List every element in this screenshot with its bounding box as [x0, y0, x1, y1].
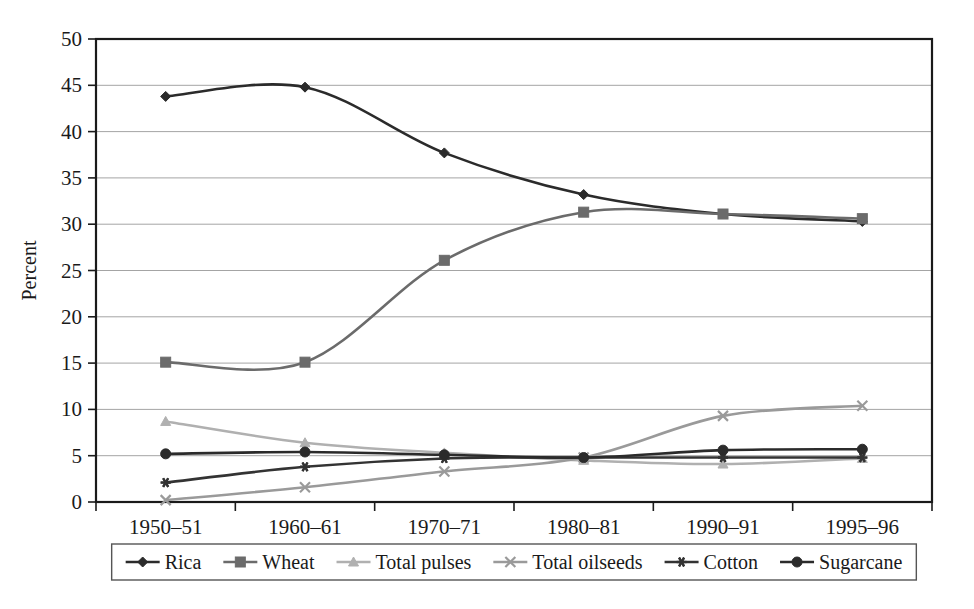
series-line — [166, 209, 863, 370]
data-point-circle — [718, 445, 728, 455]
data-point-square — [718, 209, 728, 219]
y-tick-label: 0 — [72, 490, 83, 514]
gridlines — [96, 39, 932, 456]
legend-label: Total oilseeds — [532, 551, 642, 573]
legend-label: Cotton — [704, 551, 758, 573]
data-point-circle — [300, 447, 310, 457]
series-line — [166, 457, 863, 482]
series-sugarcane — [161, 444, 868, 462]
x-axis: 1950–511960–611970–711980–811990–911995–… — [96, 502, 932, 539]
series-cotton — [161, 453, 868, 487]
data-point-circle — [439, 450, 449, 460]
data-point-square — [579, 207, 589, 217]
data-point-square — [161, 357, 171, 367]
legend-label: Sugarcane — [819, 551, 902, 574]
series-line — [166, 84, 863, 221]
data-point-square — [439, 255, 449, 265]
y-axis-title: Percent — [18, 240, 40, 300]
y-tick-label: 50 — [61, 27, 82, 51]
series-total-pulses — [161, 416, 868, 468]
data-point-asterisk — [161, 478, 171, 487]
y-tick-label: 40 — [61, 120, 82, 144]
y-tick-label: 20 — [61, 305, 82, 329]
x-tick-label: 1950–51 — [129, 515, 203, 539]
series-wheat — [161, 207, 868, 370]
y-tick-label: 10 — [61, 397, 82, 421]
line-chart: 50454035302520151050Percent1950–511960–6… — [0, 0, 974, 609]
data-point-asterisk — [300, 462, 310, 471]
chart-figure: 50454035302520151050Percent1950–511960–6… — [0, 0, 974, 609]
data-point-circle — [857, 444, 867, 454]
y-tick-label: 35 — [61, 166, 82, 190]
y-tick-label: 30 — [61, 212, 82, 236]
series-rica — [161, 82, 868, 226]
x-tick-label: 1970–71 — [408, 515, 482, 539]
x-tick-label: 1960–61 — [268, 515, 342, 539]
x-tick-label: 1980–81 — [547, 515, 621, 539]
series-group — [161, 82, 868, 505]
data-point-square — [235, 557, 245, 567]
legend-label: Wheat — [262, 551, 315, 573]
data-point-circle — [579, 453, 589, 463]
data-point-diamond — [579, 190, 589, 200]
y-tick-label: 15 — [61, 351, 82, 375]
data-point-diamond — [300, 82, 310, 92]
x-tick-label: 1990–91 — [686, 515, 760, 539]
x-tick-label: 1995–96 — [826, 515, 900, 539]
data-point-circle — [161, 449, 171, 459]
y-tick-label: 25 — [61, 259, 82, 283]
data-point-square — [300, 357, 310, 367]
data-point-square — [857, 214, 867, 224]
y-tick-label: 5 — [72, 444, 83, 468]
data-point-diamond — [161, 91, 171, 101]
legend-label: Total pulses — [376, 551, 472, 574]
y-tick-label: 45 — [61, 73, 82, 97]
data-point-diamond — [439, 148, 449, 158]
y-axis: 50454035302520151050 — [61, 27, 96, 514]
legend: RicaWheatTotal pulsesTotal oilseedsCotto… — [112, 544, 917, 580]
legend-label: Rica — [165, 551, 202, 573]
data-point-circle — [792, 557, 802, 567]
